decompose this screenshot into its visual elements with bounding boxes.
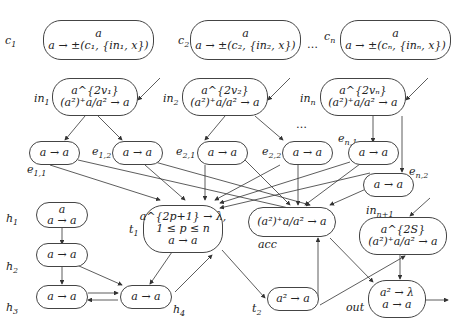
- label-e12: e1,2: [92, 145, 111, 160]
- label-h2: h2: [6, 260, 18, 275]
- neuron-cn: a a → ±(cₙ, {inₙ, x}): [340, 20, 451, 60]
- neuron-c2: a a → ±(c₂, {in₂, x}): [190, 20, 301, 60]
- neuron-in2: a^{2v₂} (a²)⁺a/a² → a: [182, 78, 268, 116]
- neuron-c1: a a → ±(c₁, {in₁, x}): [43, 20, 154, 60]
- rule: a → ±(cₙ, {inₙ, x}): [345, 40, 445, 52]
- rule: (a²)⁺a/a² → a: [190, 97, 259, 109]
- neuron-e11: a → a: [29, 141, 80, 165]
- neuron-h3: a → a: [36, 285, 88, 309]
- label-e22: e2,2: [262, 145, 281, 160]
- neuron-out: a² → λ a → a: [368, 280, 426, 318]
- label-t1: t1: [129, 223, 139, 238]
- rule: a → a: [382, 299, 411, 311]
- ellipsis-in: …: [296, 118, 307, 131]
- rule: a → a: [47, 249, 76, 261]
- label-h3: h3: [6, 301, 18, 316]
- rule: (a²)⁺a/a² → a: [60, 97, 129, 109]
- label-in2: in2: [163, 92, 179, 107]
- neuron-inn: a^{2vₙ} (a²)⁺a/a² → a: [320, 78, 406, 116]
- rule: a → ±(c₁, {in₁, x}): [48, 40, 148, 52]
- ellipsis-c: …: [307, 38, 318, 51]
- neuron-e12: a → a: [112, 141, 163, 165]
- neuron-h2: a → a: [36, 243, 88, 267]
- neuron-e21: a → a: [197, 141, 248, 165]
- rule: (a²)⁺a/a² → a: [257, 216, 326, 228]
- neuron-en1: a → a: [348, 141, 399, 165]
- rule: a → a: [131, 291, 160, 303]
- label-acc: acc: [258, 238, 277, 251]
- label-in1: in1: [34, 92, 50, 107]
- label-out: out: [346, 301, 364, 314]
- neuron-en2: a → a: [363, 173, 414, 197]
- neuron-acc: (a²)⁺a/a² → a: [248, 207, 336, 237]
- rule: (a²)⁺a/a² → a: [328, 97, 397, 109]
- label-e11: e1,1: [27, 163, 46, 178]
- rule: a → a: [168, 235, 197, 247]
- rule: a → a: [123, 147, 152, 159]
- label-cn: cn: [324, 30, 335, 45]
- rule: a → a: [293, 147, 322, 159]
- neuron-e22: a → a: [282, 141, 333, 165]
- label-inn: inn: [300, 92, 316, 107]
- rule: a → a: [40, 147, 69, 159]
- neuron-h4: a → a: [120, 285, 172, 309]
- rule: a → a: [208, 147, 237, 159]
- label-c1: c1: [5, 34, 16, 49]
- rule: a → a: [47, 291, 76, 303]
- label-e21: e2,1: [176, 145, 195, 160]
- label-t2: t2: [252, 302, 262, 317]
- rule: (a²)⁺a/a² → a: [368, 236, 437, 248]
- rule: a → a: [47, 215, 76, 226]
- neuron-t2: a² → a: [267, 287, 319, 311]
- neuron-h1: a a → a: [36, 202, 88, 228]
- label-h4: h4: [173, 303, 185, 318]
- label-h1: h1: [6, 212, 18, 227]
- rule: a → a: [359, 147, 388, 159]
- neuron-t1: a^{2p+1} → λ, 1 ≤ p ≤ n a → a: [143, 205, 223, 253]
- rule: a → a: [374, 179, 403, 191]
- rule: a → ±(c₂, {in₂, x}): [195, 40, 295, 52]
- rule: a² → a: [276, 293, 310, 305]
- label-c2: c2: [178, 34, 189, 49]
- neuron-in1: a^{2v₁} (a²)⁺a/a² → a: [52, 78, 138, 116]
- neuron-inn1: a^{2S} (a²)⁺a/a² → a: [359, 217, 447, 255]
